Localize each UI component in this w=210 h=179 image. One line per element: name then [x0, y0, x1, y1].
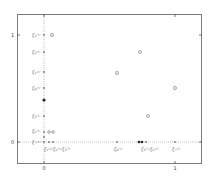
y-tick-label-1: 1	[11, 32, 14, 38]
point-label: ξ₅⁽²⁾	[141, 147, 149, 152]
data-point-open	[147, 115, 150, 118]
point-label: ξ₂⁽²⁾	[53, 147, 61, 152]
data-point	[43, 34, 45, 36]
point-label: ξ₄⁽²⁾	[114, 147, 122, 152]
data-point	[43, 131, 45, 133]
data-point	[174, 141, 176, 143]
data-point-filled	[141, 141, 144, 144]
data-point	[116, 141, 118, 143]
scatter-chart: 0 1 1 0 ξ₁⁽¹⁾ ξ₂⁽¹⁾ ξ₃⁽¹⁾ ξ₄⁽¹⁾ ξ₅⁽¹⁾ ξ₆…	[0, 0, 210, 179]
data-point	[43, 136, 45, 138]
data-point-open	[52, 131, 55, 134]
x-tick-label-1: 1	[174, 165, 177, 171]
data-point-open	[174, 87, 177, 90]
point-label: ξ₂⁽¹⁾	[32, 50, 40, 55]
point-label: ξ₇⁽²⁾	[172, 147, 180, 152]
data-point	[145, 141, 147, 143]
point-label: ξ₁⁽²⁾	[44, 147, 52, 152]
point-label: ξ₁⁽¹⁾	[32, 33, 40, 38]
data-point	[43, 51, 45, 53]
point-label: ξ₃⁽¹⁾	[32, 70, 40, 75]
data-point	[52, 141, 54, 143]
y-tick-label-0: 0	[11, 139, 14, 145]
point-label: ξ₄⁽¹⁾	[32, 86, 40, 91]
data-point	[43, 115, 45, 117]
data-point-open	[51, 34, 54, 37]
data-point	[43, 141, 45, 143]
data-point-filled	[42, 98, 45, 101]
x-tick-label-0: 0	[43, 165, 46, 171]
data-point-open	[48, 131, 51, 134]
point-label: ξ₆⁽²⁾	[150, 147, 158, 152]
point-label: ξ₃⁽²⁾	[62, 147, 70, 152]
data-point-filled	[138, 141, 141, 144]
data-point	[48, 141, 50, 143]
data-point	[43, 87, 45, 89]
data-point-open	[139, 51, 142, 54]
point-label: ξ₆⁽¹⁾	[32, 129, 40, 134]
data-point	[43, 71, 45, 73]
data-point-open	[116, 72, 119, 75]
point-label: ξ₅⁽¹⁾	[32, 114, 40, 119]
point-label: ξ₇⁽¹⁾	[32, 140, 40, 145]
